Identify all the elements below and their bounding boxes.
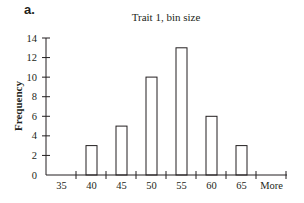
y-axis: 02468101214	[27, 33, 51, 181]
y-tick-label: 14	[27, 33, 38, 44]
x-tick-label: 50	[146, 180, 157, 191]
x-tick-label: 35	[56, 180, 67, 191]
y-tick-label: 0	[32, 170, 37, 181]
x-tick-label: 65	[236, 180, 247, 191]
histogram-chart: 02468101214 35404550556065More	[0, 0, 304, 203]
x-tick-label: 45	[116, 180, 127, 191]
x-tick-label: 60	[206, 180, 217, 191]
bar-65	[236, 146, 247, 175]
y-tick-label: 2	[32, 150, 37, 161]
y-tick-label: 12	[27, 52, 38, 63]
y-tick-label: 4	[32, 130, 38, 141]
y-tick-label: 6	[32, 111, 37, 122]
bar-55	[176, 48, 187, 175]
bar-40	[86, 146, 97, 175]
bar-45	[116, 126, 127, 175]
x-tick-label: 55	[176, 180, 187, 191]
y-tick-label: 10	[27, 72, 38, 83]
y-tick-label: 8	[32, 91, 37, 102]
bar-60	[206, 116, 217, 175]
x-tick-label: 40	[86, 180, 97, 191]
x-tick-label: More	[260, 180, 283, 191]
bar-50	[146, 77, 157, 175]
bars-group	[86, 48, 247, 175]
x-axis: 35404550556065More	[46, 171, 287, 191]
